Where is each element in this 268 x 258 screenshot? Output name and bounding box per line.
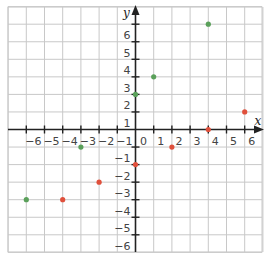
- data-point: [133, 162, 138, 167]
- y-tick-label: −3: [114, 187, 130, 200]
- data-point: [133, 92, 138, 97]
- data-point: [78, 144, 83, 149]
- y-tick-label: −2: [114, 170, 130, 183]
- x-tick-label: 5: [230, 135, 237, 148]
- data-point: [206, 127, 211, 132]
- y-tick-label: 6: [124, 29, 131, 42]
- y-tick-label: 5: [124, 47, 131, 60]
- coordinate-plane: xy −6−5−4−3−2−1123456−6−5−4−3−2−11234560: [0, 0, 268, 258]
- y-tick-label: 1: [124, 117, 131, 130]
- y-tick-label: 4: [124, 64, 131, 77]
- x-tick-label: −5: [43, 135, 59, 148]
- y-tick-label: −4: [114, 205, 130, 218]
- data-point: [60, 197, 65, 202]
- data-point: [97, 180, 102, 185]
- y-tick-label: −1: [114, 152, 130, 165]
- x-tick-label: 4: [212, 135, 219, 148]
- x-tick-label: 1: [157, 135, 164, 148]
- x-tick-label: −4: [62, 135, 78, 148]
- y-tick-label: 2: [124, 99, 131, 112]
- data-point: [151, 74, 156, 79]
- x-axis-label: x: [255, 114, 262, 128]
- data-point: [242, 109, 247, 114]
- x-tick-label: 3: [194, 135, 201, 148]
- tick-labels: −6−5−4−3−2−1123456−6−5−4−3−2−11234560: [25, 29, 255, 253]
- y-tick-label: 3: [124, 82, 131, 95]
- x-tick-label: −2: [98, 135, 114, 148]
- y-tick-label: −6: [114, 240, 130, 253]
- x-tick-label: −6: [25, 135, 41, 148]
- data-point: [169, 144, 174, 149]
- y-axis-label: y: [122, 6, 130, 20]
- data-point: [206, 22, 211, 27]
- x-tick-label: 2: [175, 135, 182, 148]
- data-point: [24, 197, 29, 202]
- x-tick-label: 6: [248, 135, 255, 148]
- origin-label: 0: [140, 135, 147, 148]
- y-tick-label: −5: [114, 222, 130, 235]
- x-tick-label: −1: [116, 135, 132, 148]
